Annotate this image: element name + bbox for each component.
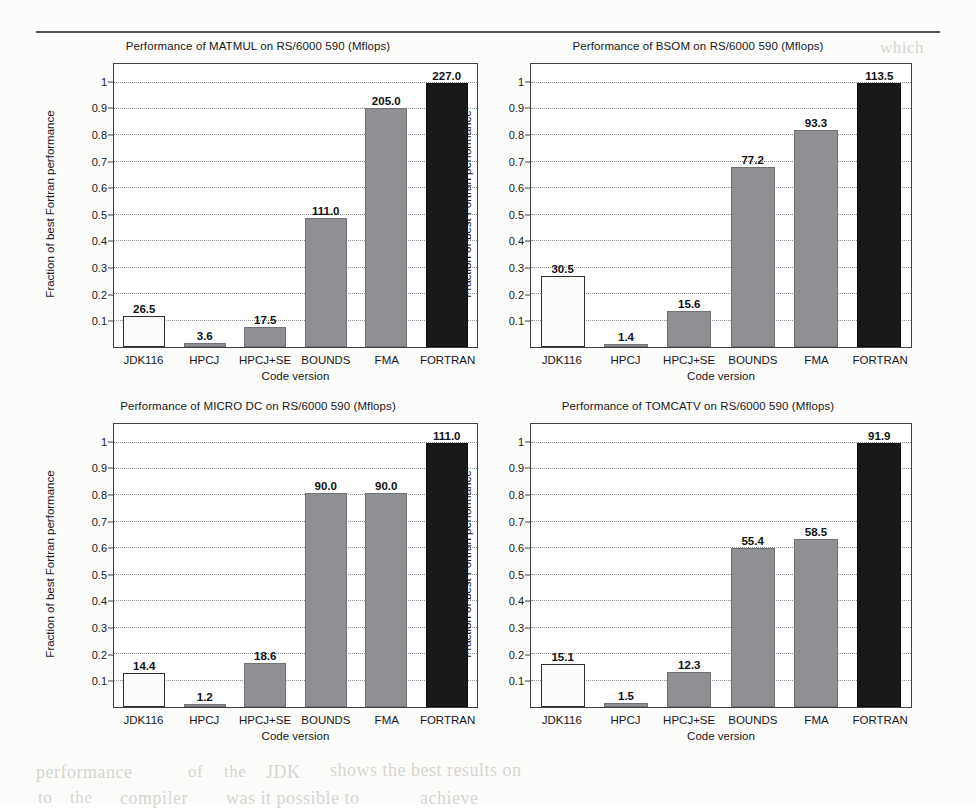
y-axis-tick-label: 0.6: [488, 542, 524, 554]
y-axis-tick-label: 0.3: [488, 622, 524, 634]
x-axis-label: Code version: [530, 730, 912, 742]
y-axis-tick-label: 0.9: [488, 462, 524, 474]
y-axis-tick-label: 0.2: [488, 649, 524, 661]
x-axis-tick-hpcj: HPCJ: [610, 714, 640, 726]
x-axis-tick-bounds: BOUNDS: [728, 714, 777, 726]
bar-value-label: 91.9: [868, 430, 890, 442]
bar-value-label: 15.1: [551, 651, 573, 663]
plot-frame: 15.11.512.355.458.591.9: [530, 423, 912, 708]
y-axis-tick-label: 0.4: [488, 595, 524, 607]
x-axis-tick-fortran: FORTRAN: [852, 714, 907, 726]
bar-value-label: 55.4: [741, 535, 763, 547]
bar-value-label: 58.5: [805, 526, 827, 538]
y-axis-tick-label: 1: [488, 436, 524, 448]
bar-value-label: 1.5: [618, 690, 634, 702]
y-axis-tick-label: 0.5: [488, 569, 524, 581]
bar-fortran: 91.9: [857, 443, 901, 707]
bar-value-label: 12.3: [678, 659, 700, 671]
x-axis-tick-jdk116: JDK116: [542, 714, 582, 726]
chart-title: Performance of TOMCATV on RS/6000 590 (M…: [470, 400, 926, 412]
bar-hpcj: 1.5: [604, 703, 648, 707]
y-axis-tick-label: 0.7: [488, 516, 524, 528]
y-axis-tick-label: 0.8: [488, 489, 524, 501]
x-axis-tick-hpcj-plus-se: HPCJ+SE: [663, 714, 715, 726]
bar-jdk116: 15.1: [541, 664, 585, 707]
bar-fma: 58.5: [794, 539, 838, 707]
bar-hpcj-plus-se: 12.3: [667, 672, 711, 707]
plot-area: 15.11.512.355.458.591.9: [530, 423, 912, 708]
bar-series: 15.11.512.355.458.591.9: [531, 424, 911, 707]
y-axis-label: Fraction of best Fortran performance: [460, 421, 472, 706]
y-axis-tick-label: 0.1: [488, 675, 524, 687]
x-axis-tick-fma: FMA: [804, 714, 828, 726]
bar-bounds: 55.4: [731, 548, 775, 707]
